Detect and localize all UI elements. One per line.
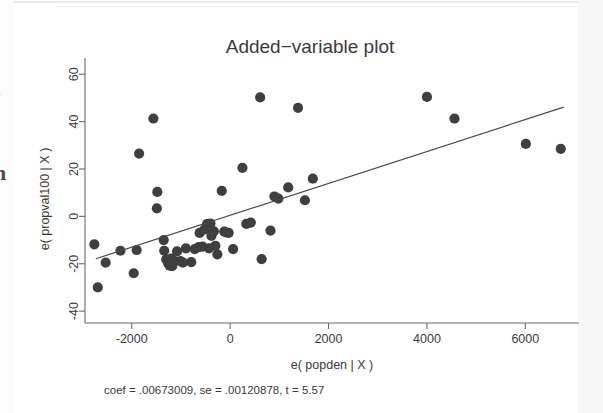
data-point (237, 163, 247, 173)
scatter-plot-canvas: Added−variable plot -40-200204060 -20000… (0, 0, 603, 413)
y-tick-label: 20 (67, 162, 81, 176)
y-tick-label: -40 (67, 302, 81, 320)
regression-fit-line (96, 107, 564, 259)
y-tick-label: 40 (67, 115, 81, 129)
data-point (246, 217, 256, 227)
scanned-page: r n Added−variable plot -40-200204060 -2… (0, 0, 603, 413)
data-point (129, 268, 139, 278)
data-point (422, 92, 432, 102)
data-point (521, 139, 531, 149)
data-point (134, 148, 144, 158)
x-tick-label: -2000 (116, 332, 148, 346)
y-axis-title: e( propval100 | X ) (38, 148, 52, 251)
data-point (89, 239, 99, 249)
data-point-group (89, 92, 566, 293)
data-point (210, 241, 220, 251)
data-point (93, 282, 103, 292)
data-point (293, 103, 303, 113)
data-point (556, 144, 566, 154)
data-point (101, 257, 111, 267)
data-point (209, 226, 219, 236)
page-title: Added−variable plot (226, 36, 395, 57)
x-tick-label: 0 (227, 332, 234, 346)
data-point (224, 228, 234, 238)
regression-line-group (96, 107, 564, 259)
y-tick-label: 60 (67, 67, 81, 81)
data-point (257, 254, 267, 264)
x-tick-label: 6000 (511, 332, 539, 346)
x-tick-group: -20000200040006000 (116, 323, 540, 346)
data-point (212, 249, 222, 259)
data-point (308, 174, 318, 184)
data-point (217, 186, 227, 196)
data-point (300, 195, 310, 205)
data-point (152, 203, 162, 213)
data-point (172, 246, 182, 256)
added-variable-plot-figure: Added−variable plot -40-200204060 -20000… (0, 0, 603, 413)
regression-note: coef = .00673009, se = .00120878, t = 5.… (104, 384, 324, 396)
data-point (148, 113, 158, 123)
y-tick-label: 0 (67, 213, 81, 220)
data-point (152, 187, 162, 197)
x-axis-title: e( popden | X ) (291, 358, 373, 372)
chart-title-group: Added−variable plot (226, 36, 395, 57)
data-point (449, 113, 459, 123)
x-tick-label: 2000 (315, 332, 343, 346)
data-point (159, 246, 169, 256)
y-tick-label: -20 (67, 255, 81, 273)
data-point (265, 225, 275, 235)
data-point (283, 182, 293, 192)
data-point (255, 92, 265, 102)
data-point (228, 244, 238, 254)
y-tick-group: -40-200204060 (67, 67, 85, 320)
data-point (186, 257, 196, 267)
data-point (181, 243, 191, 253)
x-tick-label: 4000 (413, 332, 441, 346)
